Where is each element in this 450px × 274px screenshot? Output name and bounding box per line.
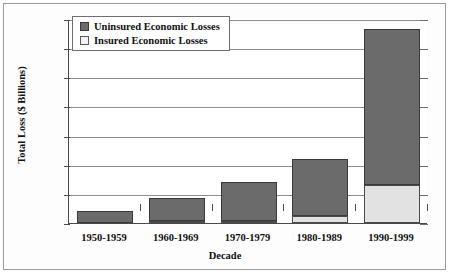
x-axis-label: 1990-1999 (355, 232, 427, 243)
y-axis-tick (64, 20, 70, 21)
x-axis-tick (212, 204, 213, 211)
y-axis-tick (64, 107, 70, 108)
y-axis-title: Total Loss ($ Billions) (16, 35, 32, 195)
legend-swatch-insured-icon (80, 36, 89, 45)
y-axis-tick (64, 78, 70, 79)
bar-stack (149, 198, 205, 223)
y-axis-tick-right (420, 49, 428, 50)
legend-swatch-uninsured-icon (80, 22, 89, 31)
bar-segment-uninsured (149, 198, 205, 221)
bar-segment-insured (364, 185, 420, 223)
x-axis-label: 1970-1979 (212, 232, 284, 243)
y-axis-tick-right (420, 78, 428, 79)
x-axis-tick (283, 204, 284, 211)
legend-item-insured: Insured Economic Losses (80, 35, 220, 46)
legend-item-uninsured: Uninsured Economic Losses (80, 21, 220, 32)
y-axis-tick (64, 49, 70, 50)
x-axis-tick (355, 204, 356, 211)
bar-segment-uninsured (364, 29, 420, 185)
chart-figure: Total Loss ($ Billions) Uninsured Econom… (0, 0, 450, 274)
y-axis-tick (64, 166, 70, 167)
bar-segment-uninsured (77, 211, 133, 223)
y-axis-tick-right (420, 195, 428, 196)
bar-segment-insured (292, 216, 348, 223)
y-axis-tick-right (420, 166, 428, 167)
y-axis-tick (64, 137, 70, 138)
bar-stack (221, 182, 277, 223)
bar-segment-insured (149, 221, 205, 223)
bar-stack (77, 211, 133, 223)
bar-stack (292, 159, 348, 223)
bar-segment-insured (221, 221, 277, 223)
x-axis-tick (140, 204, 141, 211)
x-axis-tick (427, 204, 428, 211)
legend-label-uninsured: Uninsured Economic Losses (94, 21, 220, 32)
legend-label-insured: Insured Economic Losses (94, 35, 208, 46)
x-axis-label: 1960-1969 (140, 232, 212, 243)
y-axis-tick (64, 224, 70, 225)
y-axis-tick-right (420, 224, 428, 225)
y-axis-tick-right (420, 20, 428, 21)
x-axis-title: Decade (0, 250, 450, 261)
x-axis-label: 1950-1959 (68, 232, 140, 243)
bar-segment-uninsured (221, 182, 277, 221)
bar-segment-uninsured (292, 159, 348, 216)
chart-legend: Uninsured Economic Losses Insured Econom… (72, 16, 230, 51)
x-axis-label: 1980-1989 (283, 232, 355, 243)
bar-stack (364, 29, 420, 223)
y-axis-tick-right (420, 137, 428, 138)
y-axis-tick (64, 195, 70, 196)
y-axis-tick-right (420, 107, 428, 108)
